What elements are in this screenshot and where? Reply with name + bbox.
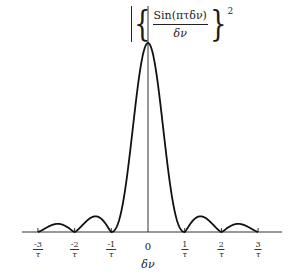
x-axis-label: δν: [141, 258, 154, 271]
function-label: { Sin(πτδν) δν } 2: [131, 4, 233, 44]
tick-numerator: -3: [33, 240, 43, 250]
paren-left: {: [134, 0, 151, 48]
x-tick-label-zero: 0: [145, 241, 151, 252]
function-exponent: 2: [227, 6, 233, 16]
tick-numerator: -2: [70, 240, 80, 250]
tick-numerator: 1: [181, 240, 188, 250]
tick-denominator: τ: [182, 250, 186, 259]
x-tick-label: 3τ: [255, 240, 262, 259]
tick-numerator: 3: [255, 240, 262, 250]
tick-numerator: 2: [218, 240, 225, 250]
function-fraction: Sin(πτδν) δν: [151, 9, 210, 40]
tick-denominator: τ: [219, 250, 223, 259]
tick-denominator: τ: [72, 250, 76, 259]
x-tick-label: -2τ: [70, 240, 80, 259]
x-tick-label: 2τ: [218, 240, 225, 259]
function-numerator: Sin(πτδν): [153, 9, 208, 25]
x-tick-label: -1τ: [106, 240, 116, 259]
x-axis-label-text: δν: [141, 258, 154, 271]
function-denominator: δν: [174, 25, 187, 40]
abs-bar-left: [131, 6, 132, 42]
tick-numerator: -1: [106, 240, 116, 250]
x-tick-label: 1τ: [181, 240, 188, 259]
paren-right: }: [210, 0, 227, 48]
tick-denominator: τ: [109, 250, 113, 259]
tick-denominator: τ: [36, 250, 40, 259]
x-tick-label: -3τ: [33, 240, 43, 259]
tick-denominator: τ: [256, 250, 260, 259]
